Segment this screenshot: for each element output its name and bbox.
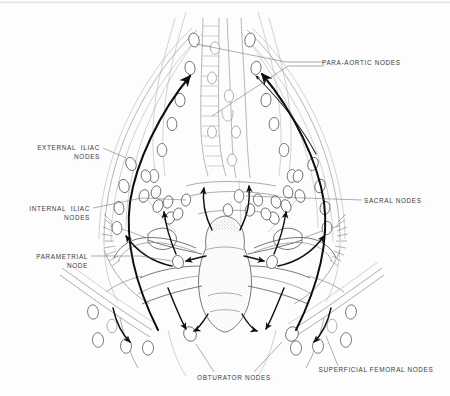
label-external-iliac-nodes-line2: NODES: [74, 153, 100, 160]
label-parametrial-node-line1: PARAMETRIAL: [36, 253, 88, 260]
label-sacral-nodes: SACRAL NODES: [364, 197, 422, 204]
label-para-aortic-nodes: PARA-AORTIC NODES: [322, 59, 401, 66]
uterus: [199, 216, 252, 332]
figure-root: PARA-AORTIC NODES EXTERNAL ILIAC NODES I…: [0, 0, 450, 396]
pelvic-lymphatic-drainage-diagram: PARA-AORTIC NODES EXTERNAL ILIAC NODES I…: [0, 0, 450, 396]
label-obturator-nodes: OBTURATOR NODES: [197, 374, 271, 381]
label-external-iliac-nodes-line1: EXTERNAL ILIAC: [37, 144, 100, 151]
label-superficial-femoral-nodes: SUPERFICIAL FEMORAL NODES: [319, 366, 434, 373]
label-internal-iliac-nodes-line2: NODES: [64, 214, 90, 221]
label-internal-iliac-nodes-line1: INTERNAL ILIAC: [29, 205, 90, 212]
label-parametrial-node-line2: NODE: [67, 262, 88, 269]
